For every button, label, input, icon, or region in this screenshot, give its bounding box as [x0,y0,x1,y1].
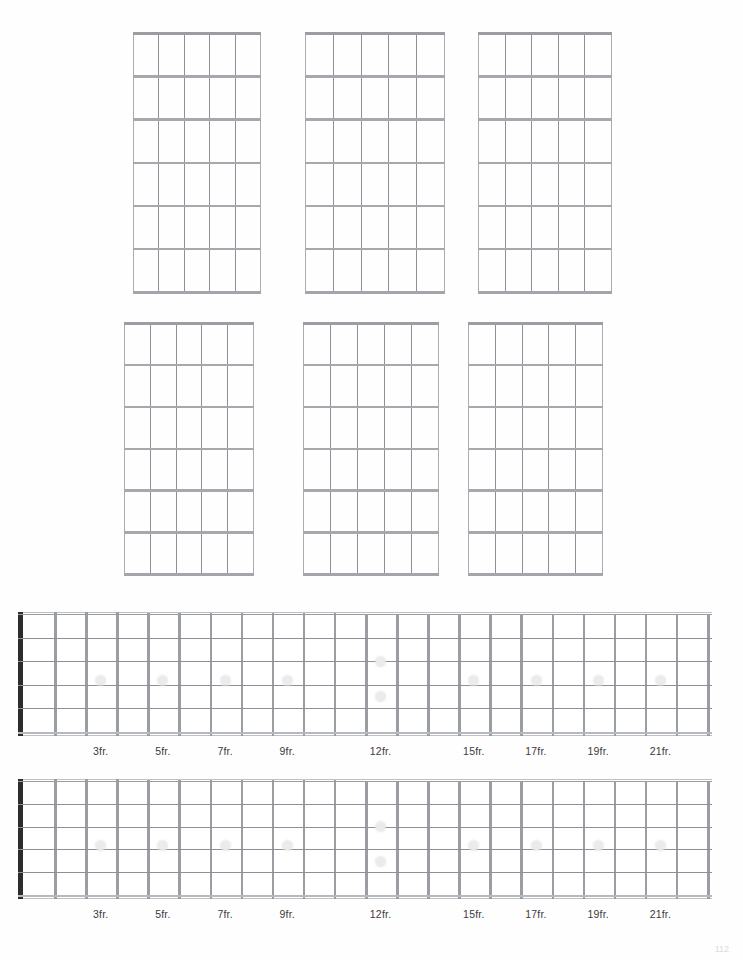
fretboard-string-line [18,872,712,873]
fretboard-inlay-dot [376,657,385,666]
chord-fret-line [305,205,445,208]
fretboard-neck[interactable] [18,779,712,899]
fret-number-label: 19fr. [587,908,608,920]
fretboard-fret-line [707,782,710,899]
fret-number-label: 21fr. [650,745,671,757]
fretboard-fret-line [707,615,710,736]
fretboard-fret-line [427,614,430,736]
chord-diagram[interactable] [133,32,261,294]
fretboard-fret-line [458,614,461,736]
fretboard-fret-line [583,614,586,736]
chord-fret-line [303,364,439,367]
fretboard-fret-line [396,781,399,899]
chord-fret-line [478,248,612,251]
fret-number-label: 9fr. [280,745,295,757]
fretboard-fret-line [54,779,57,899]
fretboard-fret-line [365,781,368,900]
chord-diagram[interactable] [305,32,445,294]
fretboard-fret-line [396,614,399,736]
fretboard-string-line [18,804,712,805]
fretboard-fret-line [552,781,555,899]
fretboard-inlay-dot [656,841,665,850]
fret-number-label: 15fr. [463,745,484,757]
chord-diagram[interactable] [478,32,612,294]
fret-number-label: 17fr. [525,908,546,920]
fretboard-inlay-dot [594,676,603,685]
chord-fret-line [133,291,261,294]
chord-grid-section [0,0,743,600]
fretboard-inlay-dot [376,857,385,866]
chord-fret-line [133,248,261,251]
fret-number-label: 3fr. [93,745,108,757]
fretboard-fret-line [614,782,617,899]
fretboard-inlay-dot [283,841,292,850]
fret-number-label: 9fr. [280,908,295,920]
fretboard-diagram-2[interactable]: 3fr.5fr.7fr.9fr.12fr.15fr.17fr.19fr.21fr… [0,779,743,939]
fretboard-fret-line [178,613,181,736]
fretboard-string-line [18,849,712,850]
chord-fret-line [305,248,445,251]
chord-fret-line [133,205,261,208]
fretboard-inlay-dot [594,841,603,850]
chord-fret-line [303,531,439,534]
fretboard-fret-line [54,612,57,736]
fretboard-fret-line [334,780,337,899]
fretboard-inlay-dot [221,676,230,685]
chord-fret-line [133,162,261,165]
chord-diagram[interactable] [468,322,603,576]
chord-fret-line [478,75,612,78]
fretboard-inlay-dot [283,676,292,685]
fretboard-string-line [18,685,712,686]
chord-nut-line [478,32,612,35]
chord-diagram-grid [133,32,261,294]
fretboard-diagram-1[interactable]: 3fr.5fr.7fr.9fr.12fr.15fr.17fr.19fr.21fr… [0,612,743,776]
fretboard-fret-line [303,613,306,736]
fret-number-label: 7fr. [217,745,232,757]
chord-fret-line [303,573,439,576]
chord-fret-line [124,489,254,492]
fretboard-inlay-dot [96,841,105,850]
fretboard-fret-line [303,780,306,899]
chord-fret-line [468,489,603,492]
fretboard-string-line [18,614,712,615]
fretboard-inlay-dot [532,841,541,850]
fretboard-string-line [18,732,712,734]
fretboard-inlay-dot [376,692,385,701]
fret-number-label: 12fr. [370,908,391,920]
fret-number-label: 3fr. [93,908,108,920]
chord-diagram[interactable] [303,322,439,576]
chord-fret-line [468,573,603,576]
fretboard-fret-line [85,779,88,899]
chord-fret-line [305,118,445,121]
fretboard-fret-line [334,613,337,736]
fretboard-inlay-dot [96,676,105,685]
fretboard-fret-line [116,779,119,899]
chord-fret-line [133,75,261,78]
fretboard-string-line [18,708,712,709]
fretboard-fret-line [676,782,679,899]
fretboard-fret-line [365,614,368,737]
fretboard-fret-line [241,613,244,736]
chord-fret-line [478,205,612,208]
fretboard-fret-line [210,780,213,899]
fretboard-neck[interactable] [18,612,712,736]
chord-diagram[interactable] [124,322,254,576]
fretboard-inlay-dot [158,841,167,850]
fretboard-fret-line [116,612,119,736]
fretboard-inlay-dot [469,676,478,685]
chord-nut-line [468,322,603,325]
fretboard-fret-line [210,613,213,736]
fretboard-fret-line [489,781,492,899]
chord-fret-line [305,162,445,165]
chord-diagram-grid [478,32,612,294]
chord-fret-line [478,291,612,294]
fretboard-nut [18,779,23,899]
chord-fret-line [468,406,603,409]
fretboard-string-line [18,895,712,897]
fret-number-label: 5fr. [155,908,170,920]
fretboard-fret-line [645,782,648,899]
worksheet-page: 3fr.5fr.7fr.9fr.12fr.15fr.17fr.19fr.21fr… [0,0,743,960]
fretboard-string-line [18,827,712,828]
fret-number-label: 5fr. [155,745,170,757]
fretboard-string-line [18,781,712,782]
